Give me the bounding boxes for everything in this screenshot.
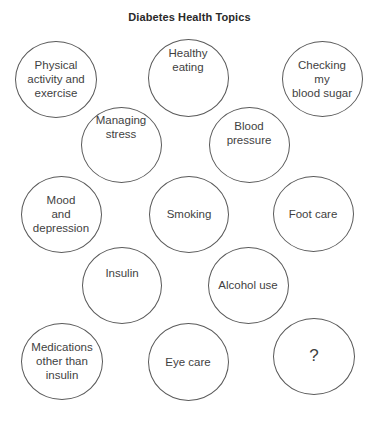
- topic-circle-unknown[interactable]: ?: [273, 318, 355, 395]
- topic-circle-blood-pressure[interactable]: Blood pressure: [209, 107, 290, 183]
- topic-label: Insulin: [105, 266, 138, 280]
- topic-label: Healthy eating: [169, 46, 208, 74]
- topic-circle-insulin[interactable]: Insulin: [82, 247, 162, 324]
- topic-label: Checking my blood sugar: [292, 58, 352, 100]
- topic-circle-checking-blood-sugar[interactable]: Checking my blood sugar: [282, 41, 363, 117]
- topic-circle-smoking[interactable]: Smoking: [149, 176, 229, 253]
- topic-circle-foot-care[interactable]: Foot care: [273, 176, 354, 252]
- topic-circle-medications-other-than-insulin[interactable]: Medications other than insulin: [21, 323, 103, 400]
- diagram-title: Diabetes Health Topics: [0, 11, 379, 23]
- topic-circle-physical-activity[interactable]: Physical activity and exercise: [15, 41, 97, 118]
- topic-label: Smoking: [167, 207, 212, 221]
- question-mark-icon: ?: [309, 347, 318, 365]
- topic-label: Blood pressure: [227, 119, 272, 147]
- topic-label: Foot care: [289, 207, 338, 221]
- topic-label: Medications other than insulin: [31, 340, 92, 382]
- topic-label: Physical activity and exercise: [27, 58, 85, 100]
- topic-circle-alcohol-use[interactable]: Alcohol use: [208, 247, 289, 324]
- topic-label: Alcohol use: [218, 278, 277, 292]
- topic-circle-managing-stress[interactable]: Managing stress: [81, 107, 162, 183]
- topic-label: Eye care: [165, 355, 210, 369]
- topic-circle-mood-depression[interactable]: Mood and depression: [21, 176, 102, 253]
- topic-circle-healthy-eating[interactable]: Healthy eating: [148, 39, 229, 117]
- topic-circle-eye-care[interactable]: Eye care: [148, 323, 229, 401]
- topic-label: Mood and depression: [33, 193, 89, 235]
- topic-label: Managing stress: [96, 113, 147, 141]
